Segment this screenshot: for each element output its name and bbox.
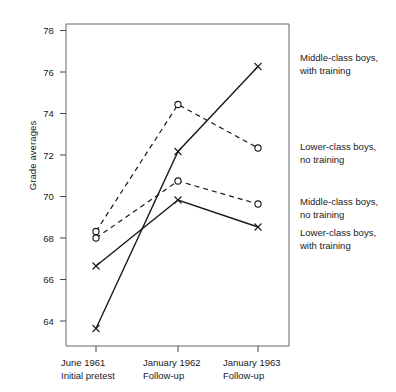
- series-lower-class-with-training: [93, 197, 262, 270]
- legend-label-line1: Lower-class boys,: [300, 227, 376, 240]
- x-tick-label-line2: Follow-up: [143, 370, 201, 383]
- y-axis-ticks: [60, 31, 66, 322]
- x-tick-label-line1: January 1963: [223, 357, 281, 370]
- x-tick-label-january-1963: January 1963 Follow-up: [223, 357, 281, 382]
- legend-item-middle-class-no-training: Middle-class boys, no training: [300, 196, 378, 221]
- x-tick-label-line2: Follow-up: [223, 370, 281, 383]
- legend-label-line2: with training: [300, 240, 376, 253]
- legend-item-middle-class-with-training: Middle-class boys, with training: [300, 52, 378, 77]
- x-tick-label-line2: Initial pretest: [61, 370, 115, 383]
- legend-label-line1: Lower-class boys,: [300, 141, 376, 154]
- y-tick-label-72: 72: [30, 150, 54, 161]
- legend-label-line2: with training: [300, 65, 378, 78]
- y-tick-label-76: 76: [30, 67, 54, 78]
- y-tick-label-68: 68: [30, 233, 54, 244]
- x-tick-label-line1: January 1962: [143, 357, 201, 370]
- y-tick-label-66: 66: [30, 274, 54, 285]
- legend-item-lower-class-with-training: Lower-class boys, with training: [300, 227, 376, 252]
- chart-container: Grade averages 78 76 74 72 70 68 66 64 J…: [0, 0, 396, 392]
- x-tick-label-june-1961: June 1961 Initial pretest: [61, 357, 115, 382]
- series-lower-class-no-training: [93, 101, 261, 234]
- y-tick-label-78: 78: [30, 25, 54, 36]
- legend-label-line2: no training: [300, 209, 378, 222]
- plot-frame: [66, 24, 289, 346]
- x-tick-label-january-1962: January 1962 Follow-up: [143, 357, 201, 382]
- legend-item-lower-class-no-training: Lower-class boys, no training: [300, 141, 376, 166]
- y-tick-label-64: 64: [30, 316, 54, 327]
- legend-label-line1: Middle-class boys,: [300, 52, 378, 65]
- x-tick-label-line1: June 1961: [61, 357, 115, 370]
- legend-label-line1: Middle-class boys,: [300, 196, 378, 209]
- x-axis-ticks: [96, 346, 258, 352]
- y-tick-label-70: 70: [30, 191, 54, 202]
- y-tick-label-74: 74: [30, 108, 54, 119]
- series-middle-class-no-training: [93, 178, 261, 241]
- legend-label-line2: no training: [300, 154, 376, 167]
